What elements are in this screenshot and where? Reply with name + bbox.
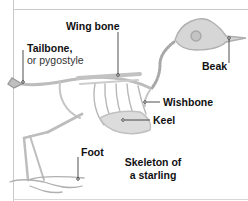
label-tailbone: Tailbone, (27, 42, 72, 54)
caption-line-1: Skeleton of (124, 156, 182, 169)
label-foot: Foot (81, 146, 104, 158)
caption-line-2: a starling (124, 169, 182, 182)
label-pygostyle: or pygostyle (27, 54, 84, 66)
label-wishbone: Wishbone (163, 96, 213, 108)
label-wing-bone: Wing bone (66, 20, 120, 32)
figure-caption: Skeleton of a starling (124, 156, 182, 182)
label-keel: Keel (153, 114, 175, 126)
label-beak: Beak (202, 60, 227, 72)
